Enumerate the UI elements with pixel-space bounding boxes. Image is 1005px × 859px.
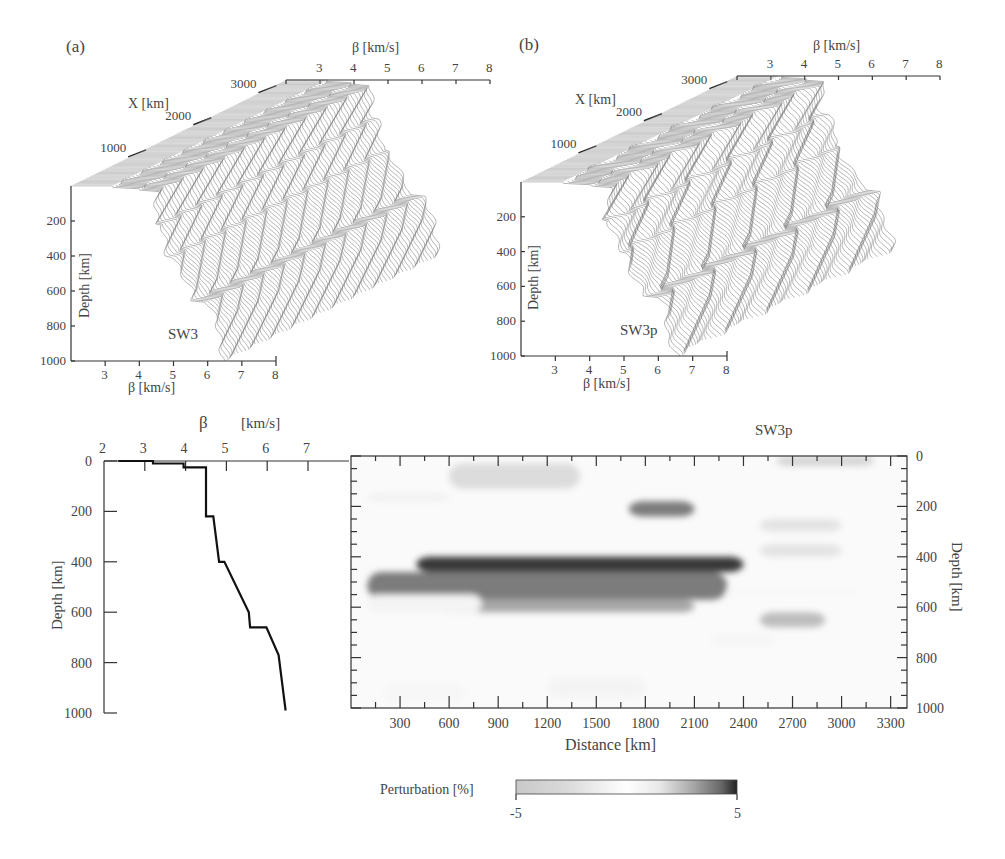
svg-text:1000: 1000 [64, 706, 92, 721]
svg-text:200: 200 [497, 209, 517, 224]
svg-text:8: 8 [272, 367, 279, 382]
svg-text:1200: 1200 [533, 716, 561, 731]
svg-text:4: 4 [350, 60, 357, 75]
svg-text:1000: 1000 [100, 140, 126, 155]
svg-text:0: 0 [916, 449, 923, 464]
svg-text:800: 800 [916, 651, 937, 666]
profile-depth-label: Depth [km] [49, 560, 65, 630]
svg-text:3000: 3000 [230, 76, 256, 91]
svg-text:400: 400 [916, 550, 937, 565]
panel-b-wiggle-traces [521, 76, 896, 356]
svg-text:4: 4 [181, 441, 188, 456]
svg-text:8: 8 [486, 60, 493, 75]
svg-text:6: 6 [868, 56, 875, 71]
svg-text:8: 8 [723, 362, 730, 377]
svg-text:5: 5 [620, 362, 627, 377]
svg-text:6: 6 [262, 441, 269, 456]
svg-text:1000: 1000 [490, 348, 516, 363]
colorbar-max: 5 [734, 806, 741, 821]
svg-text:0: 0 [85, 454, 92, 469]
profile-beta-unit: [km/s] [241, 415, 280, 431]
svg-text:8: 8 [936, 56, 943, 71]
svg-text:2100: 2100 [680, 716, 708, 731]
colorbar: Perturbation [%] -5 5 [380, 780, 741, 821]
svg-text:600: 600 [71, 605, 92, 620]
svg-text:1800: 1800 [631, 716, 659, 731]
svg-text:5: 5 [384, 60, 391, 75]
svg-text:3: 3 [101, 367, 108, 382]
svg-text:3: 3 [551, 362, 558, 377]
panel-a-model-name: SW3 [168, 326, 198, 342]
panel-b-x-label: X [km] [575, 92, 616, 107]
svg-text:4: 4 [586, 362, 593, 377]
svg-text:800: 800 [71, 656, 92, 671]
section-x-label: Distance [km] [565, 736, 656, 753]
svg-text:900: 900 [488, 716, 509, 731]
svg-text:3: 3 [140, 441, 147, 456]
svg-text:5: 5 [835, 56, 842, 71]
svg-text:2700: 2700 [779, 716, 807, 731]
panel-a-beta-bottom-ticks: 345678 [101, 361, 278, 382]
svg-text:2: 2 [99, 441, 106, 456]
panel-a-wiggle-traces [71, 80, 440, 361]
svg-text:200: 200 [47, 213, 67, 228]
profile-line [118, 461, 285, 711]
svg-text:3000: 3000 [681, 72, 707, 87]
profile-beta-symbol: β [199, 413, 208, 432]
svg-text:7: 7 [452, 60, 459, 75]
svg-text:200: 200 [916, 499, 937, 514]
svg-text:7: 7 [303, 441, 310, 456]
panel-b-beta-top-label: β [km/s] [813, 38, 860, 53]
svg-text:5: 5 [221, 441, 228, 456]
svg-text:1000: 1000 [40, 353, 66, 368]
figure: (a) β [km/s] 345678 X [km] 100020003000 … [0, 0, 1005, 859]
svg-text:7: 7 [238, 367, 245, 382]
panel-a-depth-ticks: 2004006008001000 [40, 213, 75, 368]
svg-text:6: 6 [204, 367, 211, 382]
colorbar-gradient [516, 780, 737, 794]
svg-text:600: 600 [439, 716, 460, 731]
svg-text:400: 400 [497, 244, 517, 259]
panel-a-beta-top-label: β [km/s] [352, 40, 399, 55]
section-heatmap [351, 456, 907, 708]
svg-text:2400: 2400 [729, 716, 757, 731]
svg-text:3: 3 [316, 60, 323, 75]
panel-b-beta-bottom-label: β [km/s] [583, 376, 630, 391]
svg-text:3000: 3000 [828, 716, 856, 731]
svg-text:300: 300 [390, 716, 411, 731]
panel-b-depth-label: Depth [km] [526, 245, 541, 310]
velocity-profile: β [km/s] 23456702004006008001000 Depth [… [49, 413, 349, 721]
svg-text:1000: 1000 [550, 136, 576, 151]
svg-text:3: 3 [767, 56, 774, 71]
svg-text:600: 600 [497, 278, 517, 293]
section-title: SW3p [755, 422, 793, 438]
panel-b-axes [521, 76, 940, 356]
panel-a-beta-bottom-label: β [km/s] [128, 380, 175, 395]
svg-text:2000: 2000 [616, 104, 642, 119]
svg-text:7: 7 [689, 362, 696, 377]
svg-text:7: 7 [902, 56, 909, 71]
svg-text:800: 800 [497, 313, 517, 328]
panel-a: (a) β [km/s] 345678 X [km] 100020003000 … [40, 37, 493, 395]
colorbar-label: Perturbation [%] [380, 782, 474, 797]
panel-a-label: (a) [66, 37, 85, 56]
svg-text:600: 600 [47, 283, 67, 298]
cross-section: SW3p 30060090012001500180021002400270030… [351, 422, 965, 753]
svg-text:1500: 1500 [582, 716, 610, 731]
svg-text:600: 600 [916, 600, 937, 615]
panel-b-depth-ticks: 2004006008001000 [490, 209, 525, 363]
colorbar-min: -5 [510, 806, 522, 821]
svg-text:6: 6 [418, 60, 425, 75]
panel-a-depth-label: Depth [km] [77, 253, 92, 318]
panel-b-model-name: SW3p [620, 322, 658, 338]
panel-a-x-label: X [km] [128, 96, 169, 111]
svg-text:800: 800 [47, 318, 67, 333]
panel-b: (b) β [km/s] 345678 X [km] 100020003000 … [490, 35, 943, 391]
svg-text:200: 200 [71, 504, 92, 519]
svg-text:400: 400 [47, 248, 67, 263]
svg-text:2000: 2000 [165, 108, 191, 123]
panel-b-label: (b) [519, 35, 539, 54]
svg-text:4: 4 [801, 56, 808, 71]
section-depth-label: Depth [km] [949, 542, 965, 612]
svg-text:1000: 1000 [916, 701, 944, 716]
